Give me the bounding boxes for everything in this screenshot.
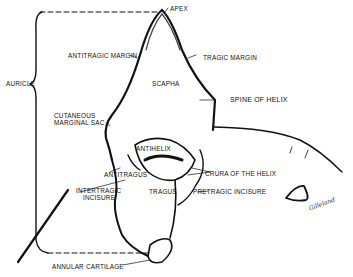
label-spine-of-helix: SPINE OF HELIX bbox=[230, 96, 288, 103]
ear-drawing bbox=[0, 0, 353, 277]
label-apex: APEX bbox=[170, 5, 188, 12]
label-antihelix: ANTIHELIX bbox=[136, 145, 171, 152]
label-antitragic-margin: ANTITRAGIC MARGIN bbox=[68, 52, 137, 59]
label-cutaneous: CUTANEOUS bbox=[54, 112, 95, 119]
label-scapha: SCAPHA bbox=[152, 80, 179, 87]
label-incisure: INCISURE bbox=[83, 194, 115, 201]
label-tragic-margin: TRAGIC MARGIN bbox=[203, 54, 257, 61]
label-annular-cartilage: ANNULAR CARTILAGE bbox=[52, 263, 124, 270]
ear-anatomy-diagram: APEX ANTITRAGIC MARGIN TRAGIC MARGIN AUR… bbox=[0, 0, 353, 277]
label-antitragus: ANTITRAGUS bbox=[104, 171, 147, 178]
label-intertragic: INTERTRAGIC bbox=[76, 187, 121, 194]
label-marginal-sac: MARGINAL SAC bbox=[54, 119, 104, 126]
label-crura-of-the-helix: CRURA OF THE HELIX bbox=[205, 170, 276, 177]
label-auricle: AURICLE bbox=[6, 80, 35, 87]
label-tragus: TRAGUS bbox=[149, 188, 177, 195]
label-pretragic-incisure: PRETRAGIC INCISURE bbox=[193, 188, 266, 195]
